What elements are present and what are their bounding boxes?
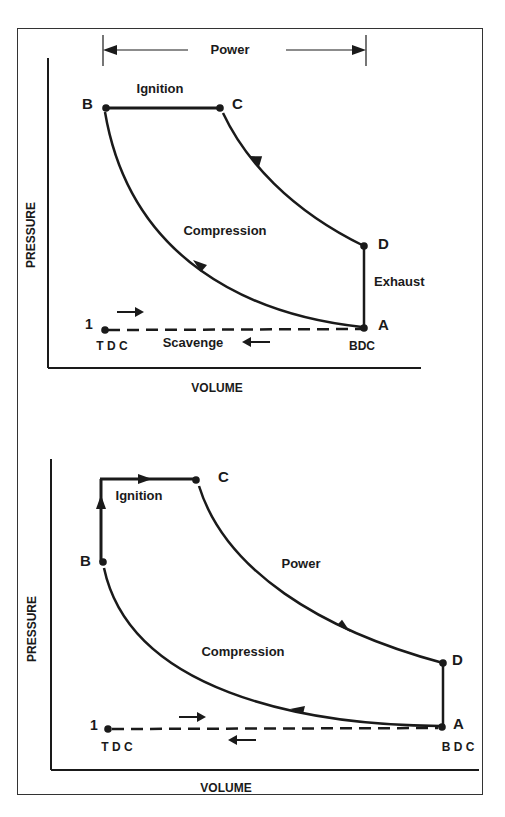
top-label-1: 1 (85, 316, 93, 332)
bottom-label-C: C (218, 468, 229, 485)
bottom-arrow-right-icon (179, 712, 206, 722)
bottom-point-B (99, 558, 107, 566)
top-diagram: PRESSURE VOLUME Power (24, 35, 425, 395)
top-label-B: B (82, 95, 93, 112)
bottom-compression-label: Compression (201, 644, 284, 659)
bottom-ignition-up-arrow-icon (96, 495, 106, 509)
bottom-point-C (192, 476, 200, 484)
top-power-dimension: Power (103, 35, 366, 66)
top-y-axis-label: PRESSURE (24, 202, 38, 268)
bottom-point-D (439, 659, 447, 667)
bottom-diagram: PRESSURE VOLUME B C D A 1 (25, 459, 479, 795)
bottom-label-D: D (452, 651, 463, 668)
top-arrow-left-icon (242, 337, 270, 347)
bottom-point-1 (104, 725, 112, 733)
top-scavenge-line (108, 329, 362, 330)
top-label-C: C (232, 95, 243, 112)
bottom-x-axis-label: VOLUME (200, 781, 251, 795)
top-point-D (360, 242, 368, 250)
top-label-D: D (378, 235, 389, 252)
top-x-axis-label: VOLUME (191, 381, 242, 395)
top-point-B (102, 104, 110, 112)
bottom-power-label: Power (281, 556, 320, 571)
top-exhaust-label: Exhaust (374, 274, 425, 289)
bottom-ignition-right-arrow-icon (138, 474, 152, 484)
top-bdc-label: BDC (349, 339, 375, 353)
top-label-A: A (378, 316, 389, 333)
top-tdc-label: T D C (96, 339, 128, 353)
bottom-power-curve (199, 486, 443, 663)
bottom-label-A: A (453, 715, 464, 732)
bottom-point-A (438, 723, 446, 731)
top-scavenge-label: Scavenge (163, 335, 224, 350)
top-arrow-right-icon (117, 307, 144, 317)
bottom-ignition-label: Ignition (116, 488, 163, 503)
bottom-tdc-label: T D C (101, 740, 133, 754)
top-point-C (216, 104, 224, 112)
bottom-label-1: 1 (90, 717, 98, 733)
top-power-label: Power (210, 42, 249, 57)
bottom-y-axis-label: PRESSURE (25, 596, 39, 662)
pv-diagrams: PRESSURE VOLUME Power (0, 0, 505, 817)
bottom-scavenge-line (112, 728, 438, 729)
top-point-A (360, 324, 368, 332)
top-point-1 (101, 326, 109, 334)
bottom-bdc-label: B D C (442, 740, 475, 754)
top-compression-curve (105, 112, 362, 327)
bottom-arrow-left-icon (228, 735, 256, 745)
top-compression-label: Compression (183, 223, 266, 238)
top-ignition-label: Ignition (137, 81, 184, 96)
bottom-label-B: B (80, 552, 91, 569)
